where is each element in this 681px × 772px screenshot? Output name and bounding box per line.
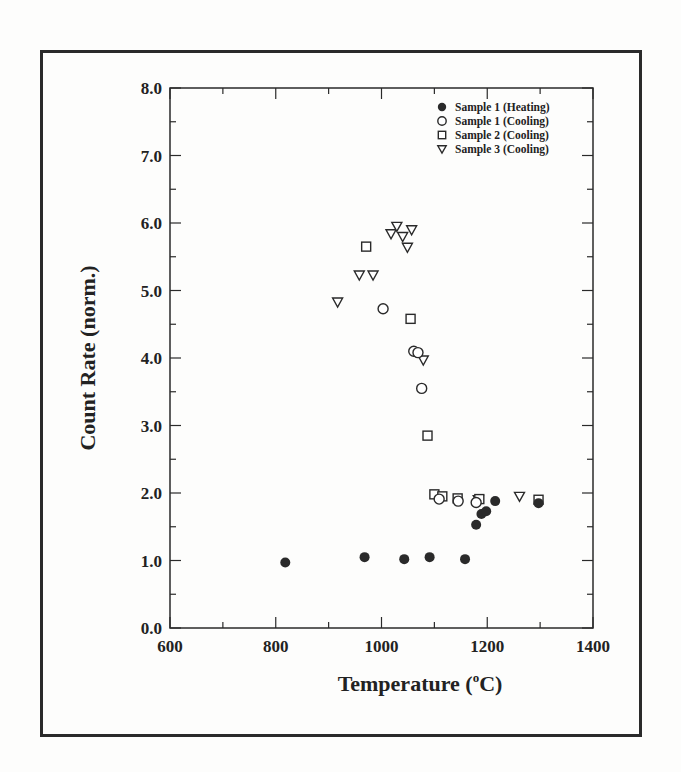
filled-circle-marker — [425, 552, 435, 562]
open-circle-marker — [438, 117, 446, 125]
plot-area-border — [170, 88, 593, 628]
series-1 — [280, 496, 543, 567]
open-triangle-marker — [402, 243, 412, 252]
y-tick-label: 5.0 — [141, 282, 162, 301]
x-axis-title: Temperature (oC) — [338, 670, 503, 696]
legend-item: Sample 2 (Cooling) — [438, 129, 549, 142]
series-3 — [362, 242, 543, 504]
filled-circle-marker — [280, 558, 290, 568]
filled-circle-marker — [534, 498, 544, 508]
legend-label: Sample 1 (Cooling) — [455, 115, 549, 128]
y-tick-label: 8.0 — [141, 79, 162, 98]
legend: Sample 1 (Heating)Sample 1 (Cooling)Samp… — [438, 101, 550, 156]
x-tick-label: 800 — [263, 637, 289, 656]
plot-axes — [170, 88, 593, 628]
series-4 — [333, 222, 525, 504]
data-points — [280, 222, 543, 567]
x-tick-label: 1200 — [470, 637, 504, 656]
y-tick-label: 7.0 — [141, 147, 162, 166]
filled-circle-marker — [490, 496, 500, 506]
axis-ticks: 6008001000120014000.01.02.03.04.05.06.07… — [141, 79, 610, 656]
y-tick-label: 4.0 — [141, 349, 162, 368]
legend-item: Sample 1 (Cooling) — [438, 115, 549, 128]
open-triangle-marker — [386, 230, 396, 239]
y-tick-label: 6.0 — [141, 214, 162, 233]
series-2 — [378, 304, 481, 508]
filled-circle-marker — [460, 554, 470, 564]
legend-label: Sample 2 (Cooling) — [455, 129, 549, 142]
open-triangle-marker — [515, 492, 525, 501]
open-circle-marker — [378, 304, 388, 314]
open-square-marker — [406, 314, 415, 323]
y-tick-label: 3.0 — [141, 417, 162, 436]
filled-circle-marker — [360, 552, 370, 562]
open-circle-marker — [453, 496, 463, 506]
open-triangle-marker — [398, 233, 408, 242]
x-tick-label: 1400 — [576, 637, 610, 656]
legend-label: Sample 1 (Heating) — [455, 101, 550, 114]
filled-circle-marker — [481, 506, 491, 516]
open-triangle-marker — [407, 226, 417, 235]
open-square-marker — [438, 131, 445, 138]
open-square-marker — [423, 431, 432, 440]
legend-item: Sample 3 (Cooling) — [438, 143, 549, 156]
open-circle-marker — [434, 494, 444, 504]
open-circle-marker — [413, 348, 423, 358]
open-triangle-marker — [354, 271, 364, 280]
legend-item: Sample 1 (Heating) — [438, 101, 550, 114]
open-circle-marker — [471, 497, 481, 507]
filled-circle-marker — [438, 103, 446, 111]
open-circle-marker — [417, 383, 427, 393]
open-triangle-marker — [333, 298, 343, 307]
legend-label: Sample 3 (Cooling) — [455, 143, 549, 156]
y-axis-title: Count Rate (norm.) — [75, 265, 100, 450]
filled-circle-marker — [471, 520, 481, 530]
y-tick-label: 1.0 — [141, 552, 162, 571]
open-square-marker — [362, 242, 371, 251]
x-tick-label: 1000 — [365, 637, 399, 656]
x-tick-label: 600 — [157, 637, 183, 656]
y-tick-label: 0.0 — [141, 619, 162, 638]
y-tick-label: 2.0 — [141, 484, 162, 503]
scatter-chart: 6008001000120014000.01.02.03.04.05.06.07… — [0, 0, 681, 772]
filled-circle-marker — [399, 554, 409, 564]
open-triangle-marker — [368, 271, 378, 280]
open-triangle-marker — [438, 146, 446, 153]
